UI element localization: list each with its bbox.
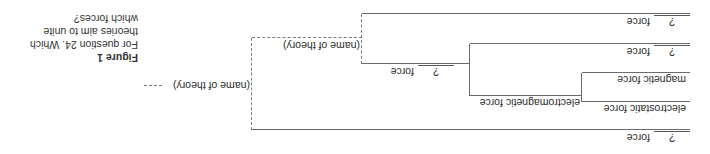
caption-line-2: theories aim to unite	[8, 25, 138, 38]
figure-caption: Figure 1 For question 24. Which theories…	[8, 12, 138, 64]
magnetic-label: magnetic force	[617, 74, 686, 86]
em-vertical	[469, 44, 470, 96]
electrostatic-label: electrostatic force	[604, 103, 686, 115]
unification-diagram: Figure 1 For question 24. Which theories…	[0, 0, 710, 154]
em-connector	[362, 63, 470, 64]
inner-vertical	[361, 14, 362, 64]
branch-line-long-1	[252, 129, 690, 130]
blank-force-em: ?force	[391, 65, 454, 78]
branch-line-mid	[470, 43, 690, 44]
caption-line-1: For question 24. Which	[8, 38, 138, 51]
branch-line-long-2	[362, 13, 690, 14]
em-sub-vertical	[581, 73, 582, 102]
figure-label: Figure 1	[8, 51, 138, 64]
magnetic-line	[582, 72, 690, 73]
blank-force-2: ?force	[627, 15, 690, 28]
root-theory-label: (name of theory)	[173, 80, 250, 92]
electromagnetic-label: electromagnetic force	[480, 97, 580, 109]
electrostatic-line	[582, 101, 690, 102]
electromagnetic-line	[470, 95, 582, 96]
inner-theory-label: (name of theory)	[283, 40, 360, 52]
inner-connector	[252, 37, 362, 38]
root-vertical	[251, 38, 252, 130]
root-connector	[144, 85, 162, 86]
blank-force-1: ?force	[627, 131, 690, 144]
blank-force-mid: ?force	[627, 45, 690, 58]
caption-line-3: which forces?	[8, 12, 138, 25]
